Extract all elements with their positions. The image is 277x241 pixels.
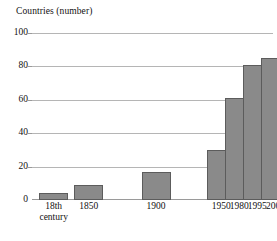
x-axis-tick-label-line1: 18th <box>45 201 62 211</box>
bar <box>261 58 277 200</box>
y-axis-tick-label: 60 <box>4 95 28 105</box>
bar <box>74 185 103 200</box>
x-axis-tick-label-line2: century <box>32 212 76 223</box>
x-axis-tick-label: 2005 <box>253 201 277 212</box>
plot-area <box>32 33 273 200</box>
x-axis-tick-label-line1: 1900 <box>147 201 166 211</box>
bar <box>142 172 171 200</box>
y-axis-tick-label: 80 <box>4 61 28 71</box>
y-axis-title: Countries (number) <box>16 6 92 16</box>
x-axis-label-row: 18thcentury185019001950198019952005 <box>0 201 277 241</box>
y-axis-tick-label: 40 <box>4 128 28 138</box>
y-axis-tick-label: 20 <box>4 162 28 172</box>
y-axis-tick-column: 020406080100 <box>0 33 28 200</box>
x-axis-tick-label-line1: 1850 <box>79 201 98 211</box>
x-axis-tick-label-line1: 2005 <box>266 201 277 211</box>
gridline <box>32 33 273 34</box>
bar-chart: Countries (number) 020406080100 18thcent… <box>0 0 277 241</box>
bar <box>39 193 68 200</box>
x-axis-tick-label: 1850 <box>67 201 111 212</box>
y-axis-tick-label: 100 <box>4 28 28 38</box>
gridline <box>32 66 273 67</box>
x-axis-tick-label: 1900 <box>134 201 178 212</box>
